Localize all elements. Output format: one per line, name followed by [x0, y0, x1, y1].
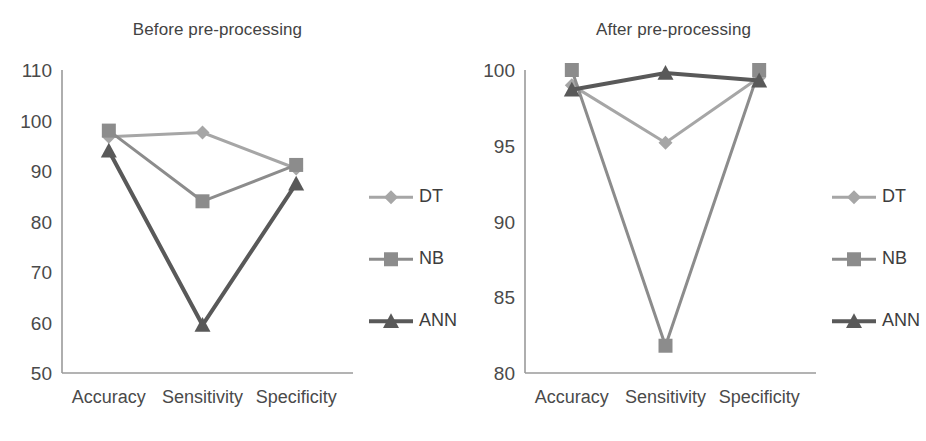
y-tick-label: 90 [494, 212, 515, 233]
legend-item-ann[interactable]: ANN [832, 310, 920, 330]
chart-panel-after: After pre-processing 80859095100Accuracy… [463, 0, 926, 441]
legend-item-nb[interactable]: NB [369, 248, 444, 268]
figure-root: Before pre-processing 5060708090100110Ac… [0, 0, 926, 441]
legend-marker-diamond-icon [384, 190, 398, 204]
legend-marker-square-icon [847, 252, 861, 266]
legend-label-dt: DT [419, 186, 443, 206]
legend-label-nb: NB [882, 248, 907, 268]
legend-label-ann: ANN [419, 310, 457, 330]
legend-item-dt[interactable]: DT [369, 186, 443, 206]
x-tick-label: Accuracy [72, 387, 146, 407]
y-tick-label: 80 [494, 363, 515, 384]
series-line-dt [572, 78, 759, 143]
chart-panel-before: Before pre-processing 5060708090100110Ac… [0, 0, 463, 441]
legend-marker-square-icon [384, 252, 398, 266]
y-tick-label: 80 [31, 212, 52, 233]
y-tick-label: 60 [31, 313, 52, 334]
chart-title-after: After pre-processing [463, 20, 926, 40]
x-tick-label: Sensitivity [625, 387, 706, 407]
legend-label-dt: DT [882, 186, 906, 206]
y-tick-label: 90 [31, 161, 52, 182]
data-point-nb [565, 63, 579, 77]
y-tick-label: 50 [31, 363, 52, 384]
legend-item-nb[interactable]: NB [832, 248, 907, 268]
legend-marker-diamond-icon [847, 190, 861, 204]
data-point-nb [196, 194, 210, 208]
legend-item-dt[interactable]: DT [832, 186, 906, 206]
x-tick-label: Accuracy [535, 387, 609, 407]
data-point-ann [288, 176, 304, 191]
y-tick-label: 110 [22, 60, 52, 81]
y-tick-label: 85 [494, 287, 515, 308]
plot-area-after: 80859095100AccuracySensitivitySpecificit… [463, 46, 926, 441]
legend-label-ann: ANN [882, 310, 920, 330]
x-tick-label: Specificity [719, 387, 800, 407]
x-tick-label: Specificity [256, 387, 337, 407]
series-line-nb [109, 131, 296, 202]
legend-label-nb: NB [419, 248, 444, 268]
chart-svg-after: 80859095100AccuracySensitivitySpecificit… [463, 46, 926, 441]
data-point-nb [102, 124, 116, 138]
y-tick-label: 100 [20, 111, 52, 132]
data-point-nb [289, 158, 303, 172]
chart-svg-before: 5060708090100110AccuracySensitivitySpeci… [0, 46, 463, 441]
data-point-nb [659, 339, 673, 353]
plot-area-before: 5060708090100110AccuracySensitivitySpeci… [0, 46, 463, 441]
y-tick-label: 95 [494, 136, 515, 157]
y-tick-label: 70 [31, 262, 52, 283]
x-tick-label: Sensitivity [162, 387, 243, 407]
legend-item-ann[interactable]: ANN [369, 310, 457, 330]
y-tick-label: 100 [483, 60, 515, 81]
data-point-dt [196, 126, 210, 140]
data-point-ann [101, 143, 117, 158]
series-line-nb [572, 70, 759, 346]
chart-title-before: Before pre-processing [0, 20, 463, 40]
